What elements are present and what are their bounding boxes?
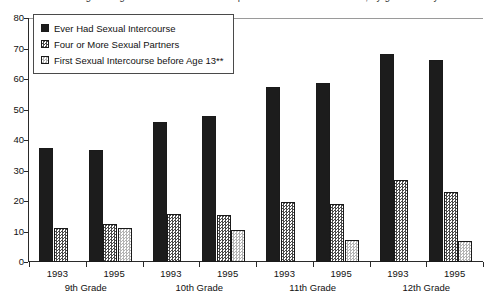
bar <box>153 122 167 262</box>
y-axis-tick-mark <box>24 140 28 141</box>
bar <box>89 150 103 262</box>
bar <box>103 224 117 262</box>
y-axis-tick-mark <box>24 79 28 80</box>
bar <box>231 230 245 262</box>
y-axis-tick-label: 40 <box>0 135 24 145</box>
y-axis-tick-label: 10 <box>0 227 24 237</box>
bar-chart: Percentage of high school students who r… <box>0 0 498 297</box>
bar <box>316 83 330 262</box>
chart-title-cropped: Percentage of high school students who r… <box>0 0 498 3</box>
y-axis-tick-label: 20 <box>0 196 24 206</box>
y-axis-tick-mark <box>24 110 28 111</box>
x-axis-grade-label: 12th Grade <box>381 283 471 293</box>
legend-label: Ever Had Sexual Intercourse <box>54 23 175 34</box>
x-axis-tick-mark <box>86 262 87 267</box>
dark-checker-swatch <box>41 40 49 48</box>
y-axis-tick-label: 50 <box>0 105 24 115</box>
y-axis-tick-mark <box>24 171 28 172</box>
bar <box>202 116 216 262</box>
bar <box>39 148 53 262</box>
y-axis-tick-mark <box>24 18 28 19</box>
y-axis-tick-mark <box>24 49 28 50</box>
bar <box>458 241 472 262</box>
x-axis-tick-mark <box>143 262 144 267</box>
x-axis-year-label: 1993 <box>254 269 314 279</box>
legend-label: Four or More Sexual Partners <box>54 39 179 50</box>
x-axis-tick-mark <box>29 262 30 267</box>
bar <box>118 228 132 262</box>
y-axis-tick-mark <box>24 232 28 233</box>
x-axis-year-label: 1995 <box>311 269 371 279</box>
y-axis-tick-label: 80 <box>0 13 24 23</box>
light-checker-swatch <box>41 56 49 64</box>
x-axis-grade-label: 11th Grade <box>268 283 358 293</box>
legend-item: First Sexual Intercourse before Age 13** <box>41 52 224 68</box>
legend-item: Ever Had Sexual Intercourse <box>41 20 224 36</box>
x-axis-year-label: 1993 <box>27 269 87 279</box>
bar <box>380 54 394 262</box>
y-axis-tick-mark <box>24 262 28 263</box>
x-axis-tick-mark <box>426 262 427 267</box>
x-axis-tick-mark <box>199 262 200 267</box>
y-axis-tick-label: 60 <box>0 74 24 84</box>
x-axis-year-label: 1995 <box>198 269 258 279</box>
x-axis-tick-mark <box>313 262 314 267</box>
y-axis-tick-mark <box>24 201 28 202</box>
x-axis-tick-mark <box>256 262 257 267</box>
x-axis-year-label: 1995 <box>84 269 144 279</box>
bar <box>167 214 181 262</box>
bar <box>345 240 359 262</box>
legend-label: First Sexual Intercourse before Age 13** <box>54 55 224 66</box>
bar <box>429 60 443 262</box>
bar <box>54 228 68 262</box>
x-axis-grade-label: 9th Grade <box>41 283 131 293</box>
bar <box>394 180 408 262</box>
y-axis-tick-label: 0 <box>0 257 24 267</box>
solid-black-swatch <box>41 24 49 32</box>
legend: Ever Had Sexual Intercourse Four or More… <box>33 14 234 74</box>
x-axis-tick-mark <box>483 262 484 267</box>
y-axis-tick-label: 70 <box>0 44 24 54</box>
bar <box>281 202 295 262</box>
bar <box>266 87 280 262</box>
x-axis-grade-label: 10th Grade <box>154 283 244 293</box>
x-axis-tick-mark <box>370 262 371 267</box>
bar <box>444 192 458 262</box>
legend-item: Four or More Sexual Partners <box>41 36 224 52</box>
x-axis-year-label: 1993 <box>141 269 201 279</box>
bar <box>217 215 231 262</box>
x-axis-year-label: 1995 <box>425 269 485 279</box>
y-axis-tick-label: 30 <box>0 166 24 176</box>
bar <box>330 204 344 262</box>
x-axis-year-label: 1993 <box>368 269 428 279</box>
